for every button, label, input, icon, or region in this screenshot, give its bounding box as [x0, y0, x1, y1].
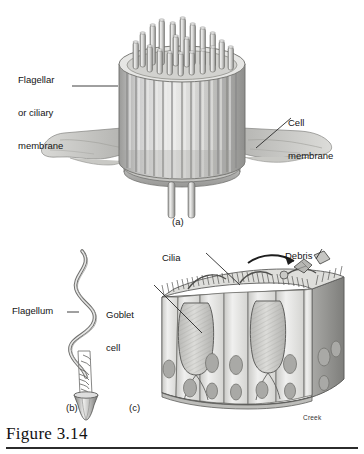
label-line: Flagellar	[18, 74, 63, 85]
panel-letter-a: (a)	[172, 216, 184, 227]
label-goblet-cell: Goblet cell	[106, 287, 134, 375]
panel-letter-c: (c)	[129, 402, 140, 413]
figure-caption: Figure 3.14	[6, 424, 88, 444]
label-line: membrane	[288, 150, 333, 161]
artist-credit: Creek	[303, 414, 321, 421]
basal-rootlets	[168, 182, 195, 218]
label-flagellar-ciliary-membrane: Flagellar or ciliary membrane	[18, 52, 63, 173]
label-debris: Debris	[285, 250, 312, 261]
caption-rule	[6, 447, 358, 449]
label-line: Goblet	[106, 309, 134, 320]
flagellum-tail	[70, 251, 97, 378]
label-line: cell	[106, 342, 134, 353]
label-line: or ciliary	[18, 107, 63, 118]
label-flagellum: Flagellum	[12, 305, 53, 316]
label-line: Cell	[288, 117, 333, 128]
label-cilia: Cilia	[162, 252, 180, 263]
panel-c-epithelium-diagram	[144, 245, 364, 425]
label-cell-membrane: Cell membrane	[288, 95, 333, 183]
figure-3-14: Flagellar or ciliary membrane Cell membr…	[0, 0, 364, 454]
panel-b-flagellum-diagram	[10, 245, 160, 425]
panel-letter-b: (b)	[66, 402, 78, 413]
label-line: membrane	[18, 140, 63, 151]
